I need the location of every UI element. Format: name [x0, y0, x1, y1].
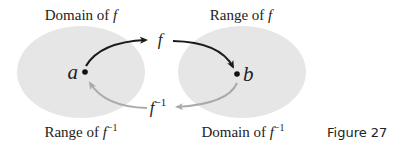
f-arrow-label: f	[158, 30, 165, 49]
domain-of-f-inverse-label: Domain of f−1	[201, 122, 284, 140]
range-of-f-inverse-label: Range of f−1	[44, 122, 117, 140]
point-a-dot	[82, 69, 88, 75]
function-inverse-diagram: Domain of f Range of f Range of f−1 Doma…	[0, 0, 398, 146]
figure-caption: Figure 27	[327, 125, 387, 140]
point-a-label: a	[68, 60, 79, 84]
domain-of-f-label: Domain of f	[45, 7, 119, 23]
point-b-label: b	[243, 62, 254, 86]
point-b-dot	[234, 71, 240, 77]
domain-of-f-set	[17, 26, 145, 118]
f-inverse-arrow-label: f−1	[150, 96, 166, 117]
range-of-f-label: Range of f	[210, 7, 274, 23]
figure-27-diagram: Domain of f Range of f Range of f−1 Doma…	[0, 0, 398, 146]
